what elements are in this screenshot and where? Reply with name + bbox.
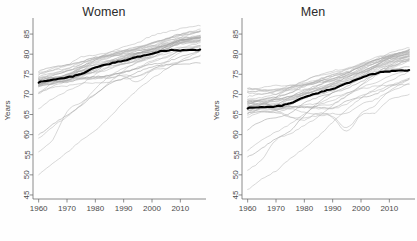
svg-text:1970: 1970 [58,204,76,213]
plot-men: 4550556065707580851960197019801990200020… [209,0,417,241]
svg-text:1960: 1960 [30,204,48,213]
svg-text:Years: Years [3,100,12,120]
life-expectancy-figure: Women 4550556065707580851960197019801990… [0,0,417,241]
svg-text:60: 60 [23,130,32,139]
svg-text:75: 75 [23,69,32,78]
svg-text:55: 55 [23,150,32,159]
svg-text:50: 50 [232,170,241,179]
svg-text:65: 65 [232,110,241,119]
svg-text:60: 60 [232,130,241,139]
svg-text:1990: 1990 [115,204,133,213]
svg-text:2010: 2010 [171,204,189,213]
svg-text:2000: 2000 [143,204,161,213]
plot-women: 4550556065707580851960197019801990200020… [0,0,208,241]
svg-text:45: 45 [23,190,32,199]
svg-text:70: 70 [232,89,241,98]
svg-text:70: 70 [23,89,32,98]
svg-text:1960: 1960 [239,204,257,213]
svg-text:65: 65 [23,110,32,119]
svg-text:Years: Years [212,100,221,120]
svg-text:1970: 1970 [267,204,285,213]
panel-women: Women 4550556065707580851960197019801990… [0,0,208,241]
svg-text:2010: 2010 [380,204,398,213]
svg-text:80: 80 [23,49,32,58]
svg-text:85: 85 [23,29,32,38]
svg-text:55: 55 [232,150,241,159]
svg-text:50: 50 [23,170,32,179]
svg-text:75: 75 [232,69,241,78]
panel-men: Men 455055606570758085196019701980199020… [209,0,417,241]
svg-text:85: 85 [232,29,241,38]
svg-text:1980: 1980 [295,204,313,213]
svg-text:45: 45 [232,190,241,199]
svg-text:80: 80 [232,49,241,58]
svg-text:1980: 1980 [86,204,104,213]
svg-text:1990: 1990 [324,204,342,213]
svg-text:2000: 2000 [352,204,370,213]
